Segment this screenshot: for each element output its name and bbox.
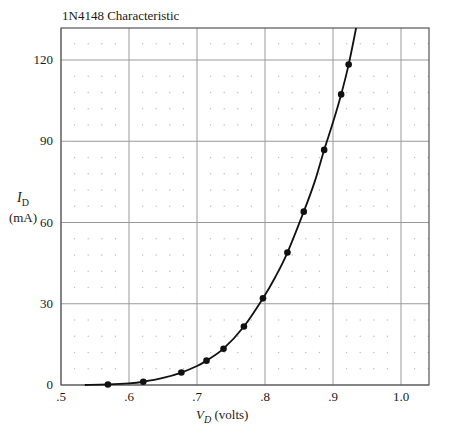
- minor-grid-dot: [292, 189, 293, 190]
- minor-grid-dot: [414, 43, 415, 44]
- minor-grid-dot: [74, 271, 75, 272]
- minor-grid-dot: [74, 124, 75, 125]
- minor-grid-dot: [319, 287, 320, 288]
- minor-grid-dot: [101, 271, 102, 272]
- minor-grid-dot: [74, 43, 75, 44]
- minor-grid-dot: [74, 157, 75, 158]
- minor-grid-dot: [292, 271, 293, 272]
- minor-grid-dot: [360, 206, 361, 207]
- minor-grid-dot: [156, 157, 157, 158]
- minor-grid-dot: [224, 271, 225, 272]
- minor-grid-dot: [319, 173, 320, 174]
- minor-grid-dot: [169, 189, 170, 190]
- minor-grid-dot: [142, 43, 143, 44]
- minor-grid-dot: [251, 352, 252, 353]
- minor-grid-dot: [224, 254, 225, 255]
- minor-grid-dot: [169, 238, 170, 239]
- minor-grid-dot: [346, 43, 347, 44]
- minor-grid-dot: [346, 352, 347, 353]
- minor-grid-dot: [224, 368, 225, 369]
- minor-grid-dot: [414, 352, 415, 353]
- minor-grid-dot: [292, 319, 293, 320]
- x-tick-label: .9: [318, 389, 348, 405]
- minor-grid-dot: [74, 319, 75, 320]
- data-point-marker: [260, 295, 267, 302]
- minor-grid-dot: [183, 206, 184, 207]
- minor-grid-dot: [373, 173, 374, 174]
- minor-grid-dot: [237, 157, 238, 158]
- minor-grid-dot: [169, 254, 170, 255]
- minor-grid-dot: [156, 271, 157, 272]
- minor-grid-dot: [278, 189, 279, 190]
- minor-grid-dot: [142, 173, 143, 174]
- minor-grid-dot: [305, 173, 306, 174]
- minor-grid-dot: [101, 368, 102, 369]
- minor-grid-dot: [183, 108, 184, 109]
- minor-grid-dot: [183, 271, 184, 272]
- x-tick-label: .5: [46, 389, 76, 405]
- minor-grid-dot: [74, 352, 75, 353]
- minor-grid-dot: [319, 271, 320, 272]
- minor-grid-dot: [115, 336, 116, 337]
- minor-grid-dot: [169, 287, 170, 288]
- minor-grid-dot: [319, 319, 320, 320]
- minor-grid-dot: [305, 124, 306, 125]
- minor-grid-dot: [210, 108, 211, 109]
- minor-grid-dot: [156, 92, 157, 93]
- minor-grid-dot: [101, 189, 102, 190]
- minor-grid-dot: [224, 92, 225, 93]
- minor-grid-dot: [224, 157, 225, 158]
- minor-grid-dot: [305, 368, 306, 369]
- minor-grid-dot: [346, 319, 347, 320]
- minor-grid-dot: [373, 157, 374, 158]
- minor-grid-dot: [292, 108, 293, 109]
- minor-grid-dot: [183, 43, 184, 44]
- minor-grid-dot: [387, 352, 388, 353]
- minor-grid-dot: [224, 352, 225, 353]
- minor-grid-dot: [115, 189, 116, 190]
- minor-grid-dot: [74, 76, 75, 77]
- minor-grid-dot: [305, 108, 306, 109]
- minor-grid-dot: [210, 173, 211, 174]
- minor-grid-dot: [373, 206, 374, 207]
- minor-grid-dot: [292, 43, 293, 44]
- minor-grid-dot: [210, 368, 211, 369]
- x-label-subscript: D: [204, 414, 211, 425]
- minor-grid-dot: [360, 319, 361, 320]
- minor-grid-dot: [319, 92, 320, 93]
- minor-grid-dot: [169, 206, 170, 207]
- minor-grid-dot: [251, 76, 252, 77]
- minor-grid-dot: [414, 271, 415, 272]
- minor-grid-dot: [346, 173, 347, 174]
- minor-grid-dot: [360, 92, 361, 93]
- x-axis-label: VD (volts): [196, 407, 248, 425]
- minor-grid-dot: [319, 206, 320, 207]
- minor-grid-dot: [224, 238, 225, 239]
- minor-grid-dot: [360, 352, 361, 353]
- minor-grid-dot: [115, 271, 116, 272]
- minor-grid-dot: [305, 157, 306, 158]
- minor-grid-dot: [237, 189, 238, 190]
- minor-grid-dot: [360, 43, 361, 44]
- minor-grid-dot: [305, 189, 306, 190]
- minor-grid-dot: [115, 92, 116, 93]
- minor-grid-dot: [387, 108, 388, 109]
- minor-grid-dot: [156, 43, 157, 44]
- minor-grid-dot: [387, 336, 388, 337]
- minor-grid-dot: [251, 108, 252, 109]
- minor-grid-dot: [142, 271, 143, 272]
- y-tick-label: 90: [19, 133, 53, 149]
- minor-grid-dot: [101, 43, 102, 44]
- minor-grid-dot: [237, 368, 238, 369]
- minor-grid-dot: [156, 189, 157, 190]
- minor-grid-dot: [292, 254, 293, 255]
- minor-grid-dot: [278, 108, 279, 109]
- minor-grid-dot: [101, 76, 102, 77]
- minor-grid-dot: [237, 352, 238, 353]
- minor-grid-dot: [115, 108, 116, 109]
- minor-grid-dot: [224, 76, 225, 77]
- minor-grid-dot: [346, 368, 347, 369]
- minor-grid-dot: [305, 287, 306, 288]
- minor-grid-dot: [183, 157, 184, 158]
- minor-grid-dot: [346, 92, 347, 93]
